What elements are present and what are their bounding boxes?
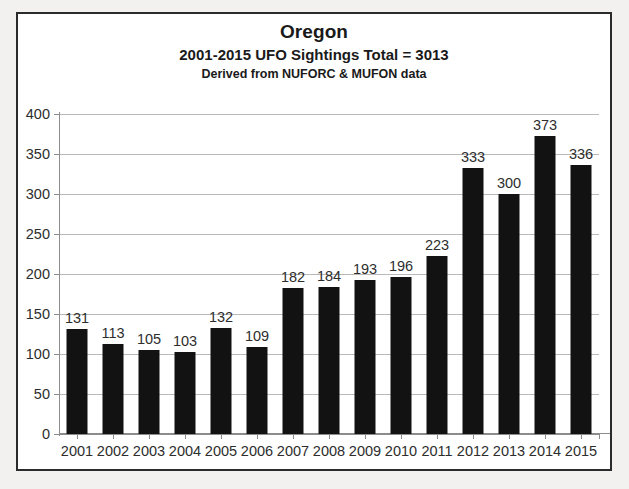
x-axis-tick	[329, 434, 330, 439]
bar-value-label: 373	[533, 117, 557, 133]
x-axis-label: 2003	[133, 443, 165, 459]
x-axis-label: 2015	[565, 443, 597, 459]
x-axis-tick	[77, 434, 78, 439]
y-axis-label: 300	[26, 186, 50, 202]
bar-group[interactable]: 3002013	[491, 114, 527, 434]
bar-value-label: 182	[281, 269, 305, 285]
bar[interactable]	[319, 287, 340, 434]
bar-value-label: 223	[425, 237, 449, 253]
bar-value-label: 184	[317, 268, 341, 284]
x-axis-tick	[599, 434, 600, 439]
x-axis-label: 2001	[61, 443, 93, 459]
x-axis-label: 2006	[241, 443, 273, 459]
chart-title: Oregon	[18, 20, 610, 44]
bar-value-label: 196	[389, 258, 413, 274]
bar[interactable]	[283, 288, 304, 434]
bar[interactable]	[463, 168, 484, 434]
bar[interactable]	[571, 165, 592, 434]
bar-group[interactable]: 1312001	[59, 114, 95, 434]
bar-series: 1312001113200210520031032004132200510920…	[59, 114, 599, 434]
y-axis-label: 100	[26, 346, 50, 362]
bar-group[interactable]: 1822007	[275, 114, 311, 434]
bar-value-label: 333	[461, 149, 485, 165]
bar-value-label: 300	[497, 175, 521, 191]
x-axis-label: 2005	[205, 443, 237, 459]
y-axis-label: 400	[26, 106, 50, 122]
bar-group[interactable]: 3362015	[563, 114, 599, 434]
bar-value-label: 193	[353, 261, 377, 277]
x-axis-tick	[365, 434, 366, 439]
x-axis-tick	[257, 434, 258, 439]
x-axis-label: 2002	[97, 443, 129, 459]
x-axis-tick	[437, 434, 438, 439]
bar[interactable]	[175, 352, 196, 434]
y-axis-label: 350	[26, 146, 50, 162]
x-axis-label: 2008	[313, 443, 345, 459]
bar-value-label: 105	[137, 331, 161, 347]
bar-group[interactable]: 1962010	[383, 114, 419, 434]
y-axis-label: 50	[34, 386, 50, 402]
y-axis-label: 150	[26, 306, 50, 322]
y-axis-label: 200	[26, 266, 50, 282]
x-axis-label: 2014	[529, 443, 561, 459]
bar-group[interactable]: 1132002	[95, 114, 131, 434]
x-axis-label: 2013	[493, 443, 525, 459]
plot-area: 050100150200250300350400 131200111320021…	[59, 114, 599, 434]
bar-group[interactable]: 1052003	[131, 114, 167, 434]
bar[interactable]	[535, 136, 556, 434]
bar[interactable]	[391, 277, 412, 434]
chart-source-note: Derived from NUFORC & MUFON data	[18, 65, 610, 84]
bar[interactable]	[103, 344, 124, 434]
title-block: Oregon 2001-2015 UFO Sightings Total = 3…	[18, 20, 610, 84]
bar[interactable]	[427, 256, 448, 434]
x-axis-label: 2010	[385, 443, 417, 459]
x-axis-label: 2009	[349, 443, 381, 459]
bar-group[interactable]: 2232011	[419, 114, 455, 434]
chart-figure: Oregon 2001-2015 UFO Sightings Total = 3…	[16, 12, 612, 471]
x-axis-tick	[545, 434, 546, 439]
bar-value-label: 132	[209, 309, 233, 325]
x-axis-label: 2012	[457, 443, 489, 459]
bar[interactable]	[67, 329, 88, 434]
x-axis-tick	[293, 434, 294, 439]
bar-group[interactable]: 1092006	[239, 114, 275, 434]
x-axis-tick	[113, 434, 114, 439]
bar-group[interactable]: 1932009	[347, 114, 383, 434]
bar-group[interactable]: 3332012	[455, 114, 491, 434]
x-axis-label: 2007	[277, 443, 309, 459]
x-axis-label: 2004	[169, 443, 201, 459]
bar[interactable]	[247, 347, 268, 434]
chart-subtitle: 2001-2015 UFO Sightings Total = 3013	[18, 44, 610, 65]
x-axis-label: 2011	[421, 443, 452, 459]
x-axis-tick	[581, 434, 582, 439]
bar-group[interactable]: 3732014	[527, 114, 563, 434]
bar-value-label: 103	[173, 333, 197, 349]
x-axis-tick	[401, 434, 402, 439]
bar-value-label: 109	[245, 328, 269, 344]
bar-value-label: 131	[65, 310, 89, 326]
y-axis-label: 250	[26, 226, 50, 242]
bar-group[interactable]: 1032004	[167, 114, 203, 434]
bar[interactable]	[211, 328, 232, 434]
bar[interactable]	[139, 350, 160, 434]
bar-group[interactable]: 1842008	[311, 114, 347, 434]
bar-value-label: 113	[101, 325, 124, 341]
bar-group[interactable]: 1322005	[203, 114, 239, 434]
y-axis-label: 0	[42, 426, 50, 442]
x-axis-tick	[221, 434, 222, 439]
bar-value-label: 336	[569, 146, 593, 162]
x-axis-tick	[473, 434, 474, 439]
x-axis-tick	[509, 434, 510, 439]
bar[interactable]	[355, 280, 376, 434]
bar[interactable]	[499, 194, 520, 434]
x-axis-tick	[149, 434, 150, 439]
x-axis-tick	[185, 434, 186, 439]
